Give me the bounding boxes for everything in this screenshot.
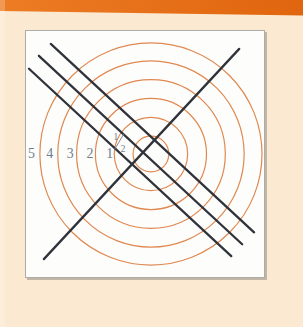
region-label-4: 4 [46,147,53,162]
level-circle-2 [114,117,187,190]
header-bar [0,0,303,17]
region-label-3: 3 [67,147,74,162]
figure-panel: 5432112 [25,30,265,278]
region-label-1: 1 [106,147,113,162]
circles-and-lines-figure: 5432112 [26,31,264,277]
page-background: 5432112 [0,0,303,327]
page-edge-highlight [0,0,5,327]
region-label-2: 2 [86,147,93,162]
one-half-denominator: 2 [121,144,126,154]
level-circle-4 [77,80,226,229]
level-circle-1 [133,136,169,172]
one-half-numerator: 1 [113,132,118,142]
region-label-5: 5 [28,147,35,162]
parallel-line-3 [29,69,231,256]
